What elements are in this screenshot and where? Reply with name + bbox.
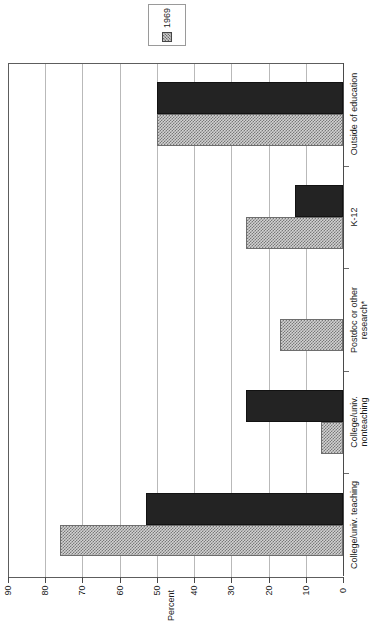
value-axis-tick-label: 80 [41, 580, 50, 602]
bar-solid [246, 390, 343, 422]
legend-label-1969: 1969 [163, 8, 172, 28]
bar-group [0, 82, 391, 146]
value-axis-tick-label: 20 [264, 580, 273, 602]
value-axis-tick-label: 90 [4, 580, 13, 602]
bar-hatched-1969 [157, 114, 343, 146]
bar-hatched-1969 [280, 319, 343, 351]
bar-group [0, 288, 391, 352]
category-label: Outside of education [349, 54, 359, 174]
category-label: College/univ. nonteaching [349, 362, 369, 482]
bar-solid [157, 82, 343, 114]
bar-group [0, 185, 391, 249]
value-axis-tick-label: 50 [152, 580, 161, 602]
value-axis-tick-label: 0 [339, 580, 348, 602]
category-label: College/univ. teaching [349, 465, 359, 585]
value-axis-tick-label: 40 [190, 580, 199, 602]
value-axis-tick-label: 60 [115, 580, 124, 602]
bar-group [0, 493, 391, 557]
bar-hatched-1969 [246, 217, 343, 249]
legend-entry-1969: 1969 [162, 8, 172, 42]
legend-swatch-hatched-icon [162, 32, 172, 42]
value-axis-title: Percent [167, 590, 176, 621]
bar-hatched-1969 [321, 422, 343, 454]
value-axis-tick-label: 70 [78, 580, 87, 602]
value-axis-tick-label: 30 [227, 580, 236, 602]
bar-hatched-1969 [60, 525, 343, 557]
value-axis-tick-label: 10 [301, 580, 310, 602]
category-label: K-12 [349, 157, 359, 277]
category-label: Postdoc or other research* [349, 260, 369, 380]
bar-solid [146, 493, 343, 525]
bar-solid [295, 185, 343, 217]
bar-group [0, 390, 391, 454]
chart-legend: 1969 [148, 4, 186, 46]
